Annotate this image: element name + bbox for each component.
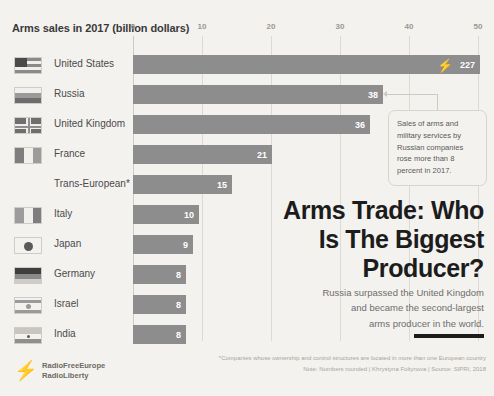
bar-japan: 9 bbox=[133, 235, 193, 254]
axis-tick-label-40: 40 bbox=[405, 22, 414, 31]
country-label: Russia bbox=[54, 88, 85, 99]
footnote-line-1: *Companies whose ownership and control s… bbox=[118, 353, 486, 364]
flag-italy-icon bbox=[14, 207, 42, 224]
country-label: Israel bbox=[54, 298, 78, 309]
bar-value-label: 36 bbox=[355, 120, 365, 130]
country-label: France bbox=[54, 148, 85, 159]
bar-value-label: 38 bbox=[368, 90, 378, 100]
footnote: *Companies whose ownership and control s… bbox=[118, 353, 486, 375]
flag-india-icon bbox=[14, 327, 42, 344]
flag-france-icon bbox=[14, 147, 42, 164]
flag-united-kingdom-icon bbox=[14, 117, 42, 134]
bar-value-label: 9 bbox=[183, 240, 188, 250]
bar-value-label: 10 bbox=[184, 210, 194, 220]
logo-text: RadioFreeEurope RadioLiberty bbox=[42, 361, 105, 381]
country-label: Japan bbox=[54, 238, 81, 249]
bar-value-label: 8 bbox=[176, 270, 181, 280]
subtitle-line-3: arms producer in the world. bbox=[194, 316, 484, 331]
country-label: India bbox=[54, 328, 76, 339]
subtitle: Russia surpassed the United Kingdom and … bbox=[194, 285, 484, 331]
bar-value-label: 8 bbox=[176, 330, 181, 340]
bar-united-kingdom: 36 bbox=[133, 115, 370, 134]
flag-germany-icon bbox=[14, 267, 42, 284]
headline-line-2: Is The Biggest bbox=[194, 225, 484, 254]
axis-tick-label-0: 0 bbox=[131, 22, 135, 31]
flag-russia-icon bbox=[14, 87, 42, 104]
divider bbox=[414, 334, 484, 338]
country-label: United States bbox=[54, 58, 114, 69]
infographic-root: Arms sales in 2017 (billion dollars) 0 1… bbox=[0, 0, 494, 396]
axis-tick-label-50: 50 bbox=[474, 22, 483, 31]
table-row: United States ⚡ 227 bbox=[0, 50, 494, 80]
flag-japan-icon bbox=[14, 237, 42, 254]
subtitle-line-1: Russia surpassed the United Kingdom bbox=[194, 285, 484, 300]
bar-value-label: 21 bbox=[257, 150, 267, 160]
bar-value-label: 15 bbox=[217, 180, 227, 190]
bar-trans-european: 15 bbox=[133, 175, 232, 194]
chart-title: Arms sales in 2017 (billion dollars) bbox=[12, 22, 189, 34]
bar-germany: 8 bbox=[133, 265, 186, 284]
footnote-line-2: Note: Numbers rounded | Khrystyna Foltyn… bbox=[118, 364, 486, 375]
axis-tick-label-30: 30 bbox=[336, 22, 345, 31]
headline-line-3: Producer? bbox=[194, 254, 484, 283]
bar-india: 8 bbox=[133, 325, 186, 344]
bar-value-label: 227 bbox=[460, 60, 475, 70]
subtitle-line-2: and became the second-largest bbox=[194, 300, 484, 315]
bar-italy: 10 bbox=[133, 205, 199, 224]
callout-connector-horizontal bbox=[386, 94, 437, 95]
bar-israel: 8 bbox=[133, 295, 186, 314]
lightning-bolt-icon: ⚡ bbox=[14, 361, 38, 380]
logo-line-2: RadioLiberty bbox=[42, 371, 105, 381]
axis-tick-label-10: 10 bbox=[198, 22, 207, 31]
bar-united-states: ⚡ 227 bbox=[133, 55, 480, 74]
flag-united-states-icon bbox=[14, 57, 42, 74]
callout-connector-vertical bbox=[437, 94, 438, 111]
page-title: Arms Trade: Who Is The Biggest Producer? bbox=[194, 196, 484, 283]
axis-tick-label-20: 20 bbox=[267, 22, 276, 31]
flag-israel-icon bbox=[14, 297, 42, 314]
bar-france: 21 bbox=[133, 145, 272, 164]
bar-russia: 38 bbox=[133, 85, 383, 104]
callout-box: Sales of arms and military services by R… bbox=[388, 110, 487, 186]
country-label: Germany bbox=[54, 268, 95, 279]
headline-line-1: Arms Trade: Who bbox=[194, 196, 484, 225]
country-label: Trans-European* bbox=[54, 178, 130, 189]
lightning-bolt-icon: ⚡ bbox=[437, 58, 453, 71]
country-label: Italy bbox=[54, 208, 72, 219]
logo-line-1: RadioFreeEurope bbox=[42, 361, 105, 371]
rferl-logo: ⚡ RadioFreeEurope RadioLiberty bbox=[14, 361, 105, 381]
table-row: Russia 38 bbox=[0, 80, 494, 110]
country-label: United Kingdom bbox=[54, 118, 125, 129]
bar-value-label: 8 bbox=[176, 300, 181, 310]
